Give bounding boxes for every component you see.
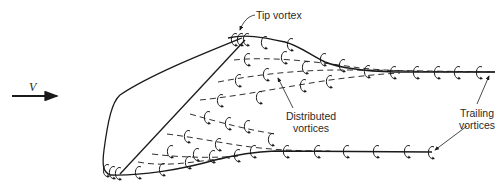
wing-outline bbox=[103, 38, 245, 175]
velocity-label: V bbox=[29, 81, 36, 93]
distributed-label-line2: vortices bbox=[276, 122, 346, 134]
tip-vortex-label: Tip vortex bbox=[256, 9, 302, 21]
lower-trailing-curve bbox=[110, 151, 432, 175]
distributed-vortices-label: Distributed vortices bbox=[276, 110, 346, 134]
upper-trailing-curve bbox=[228, 36, 495, 72]
distributed-label-line1: Distributed bbox=[276, 110, 346, 122]
trailing-label-line2: vortices bbox=[452, 119, 502, 131]
diagram-canvas bbox=[0, 0, 502, 186]
trailing-label-line1: Trailing bbox=[452, 107, 502, 119]
distributed-vortex-glyphs bbox=[167, 52, 333, 163]
trailing-vortices-label: Trailing vortices bbox=[452, 107, 502, 131]
